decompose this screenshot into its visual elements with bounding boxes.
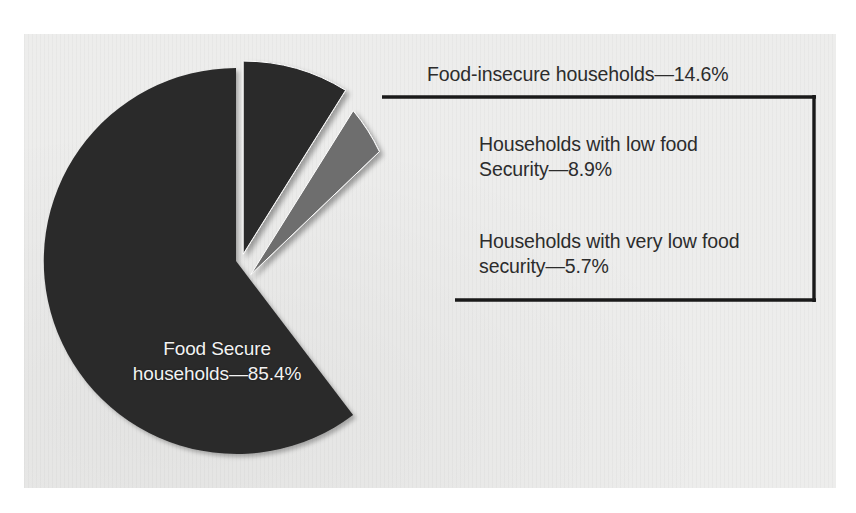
- label-very-low-food-security: Households with very low food security—5…: [479, 229, 739, 279]
- label-food-secure-households: Food Secure households—85.4%: [92, 336, 342, 386]
- label-low-food-security: Households with low food Security—8.9%: [479, 132, 698, 182]
- figure-canvas: Food-insecure households—14.6% Household…: [0, 0, 856, 513]
- label-food-insecure-households: Food-insecure households—14.6%: [427, 62, 729, 87]
